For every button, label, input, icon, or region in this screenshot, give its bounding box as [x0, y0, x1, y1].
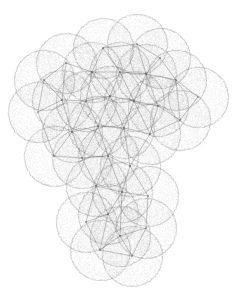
disk-graph-canvas [0, 0, 235, 293]
figure-root [0, 0, 235, 293]
